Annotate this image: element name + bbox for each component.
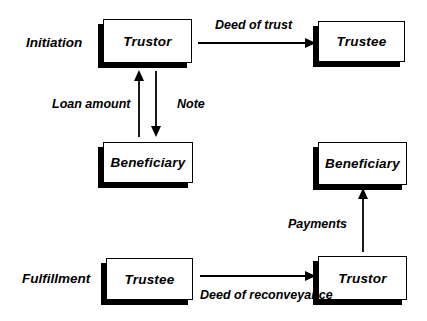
beneficiary-left-box: Beneficiary [103,142,193,183]
trustor-top-box: Trustor [103,19,192,63]
payments-label: Payments [288,217,347,231]
beneficiary-right-box: Beneficiary [318,142,407,185]
deed-of-reconveyance-label: Deed of reconveyance [200,288,333,302]
deed-of-trust-label: Deed of trust [215,18,292,32]
initiation-label: Initiation [26,35,82,50]
note-arrow [151,71,161,137]
deed-of-reconveyance-arrow [200,271,316,281]
fulfillment-label: Fulfillment [22,271,90,286]
loan-amount-label: Loan amount [52,97,130,111]
trustee-top-box: Trustee [318,21,405,62]
loan-amount-arrow [134,70,144,137]
trustee-bottom-box: Trustee [106,258,193,300]
note-label: Note [177,97,205,111]
deed-of-trust-arrow [198,38,316,48]
payments-arrow [358,188,368,252]
deed-of-trust-diagram: Initiation Fulfillment Trustor Trustee B… [0,0,427,321]
